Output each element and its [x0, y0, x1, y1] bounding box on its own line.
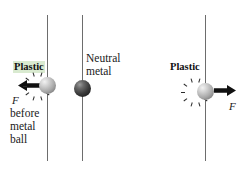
force-label-right: F	[229, 101, 236, 113]
physics-diagram: Plastic F before metal ball Neutral meta…	[0, 0, 243, 171]
caption-line-3: ball	[10, 133, 50, 146]
caption-line-1: before	[10, 107, 50, 120]
label-neutral-line-1: Neutral	[86, 52, 134, 65]
label-plastic-right: Plastic	[170, 61, 200, 73]
caption-before-metal-ball: before metal ball	[10, 107, 50, 145]
neutral-metal-ball	[74, 80, 91, 97]
force-label-left: F	[12, 95, 19, 107]
charged-plastic-ball-right	[197, 83, 214, 100]
label-plastic-left: Plastic	[13, 61, 45, 73]
force-arrow-right-icon	[214, 85, 236, 96]
label-neutral-metal: Neutral metal	[86, 52, 134, 77]
charged-plastic-ball-left	[39, 77, 56, 94]
caption-line-2: metal	[10, 120, 50, 133]
label-neutral-line-2: metal	[86, 65, 134, 78]
